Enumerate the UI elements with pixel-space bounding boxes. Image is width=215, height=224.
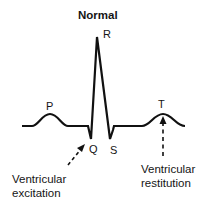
caption-restitution-line1: Ventricular xyxy=(141,162,195,176)
restitution-arrow xyxy=(160,116,167,156)
label-r-wave: R xyxy=(103,28,111,40)
diagram-title: Normal xyxy=(78,9,118,21)
caption-excitation-line1: Ventricular xyxy=(12,172,66,186)
label-t-wave: T xyxy=(158,98,165,110)
label-p-wave: P xyxy=(46,100,53,112)
excitation-arrow xyxy=(68,144,85,165)
caption-restitution-line2: restitution xyxy=(141,176,195,190)
caption-ventricular-restitution: Ventricular restitution xyxy=(141,162,195,190)
caption-ventricular-excitation: Ventricular excitation xyxy=(12,172,66,200)
label-q-wave: Q xyxy=(89,143,98,155)
caption-excitation-line2: excitation xyxy=(12,186,66,200)
label-s-wave: S xyxy=(110,144,117,156)
